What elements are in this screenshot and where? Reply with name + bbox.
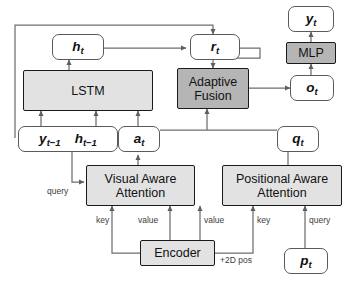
edge-label-positional-value: value — [203, 215, 225, 225]
node-o-t: ot — [290, 75, 334, 101]
edge-label-2d-pos: +2D pos — [219, 255, 253, 265]
architecture-diagram: ht rt yt ot at qt pt yt−1 ht−1 LSTM Adap… — [0, 0, 360, 283]
node-q-t: qt — [277, 126, 319, 152]
block-positional-aware-attention: Positional Aware Attention — [222, 165, 342, 206]
node-h-t: ht — [52, 34, 104, 60]
node-p-t: pt — [284, 248, 328, 274]
block-visual-attention-label-line2: Attention — [116, 186, 165, 200]
block-visual-aware-attention: Visual Aware Attention — [86, 165, 195, 206]
edge-label-positional-query: query — [308, 215, 331, 225]
node-prev-state: yt−1 ht−1 — [18, 126, 118, 152]
edge-label-visual-value: value — [137, 215, 159, 225]
node-o-t-label: ot — [306, 80, 317, 95]
block-lstm: LSTM — [23, 70, 153, 111]
block-adaptive-fusion-label-line1: Adaptive — [189, 75, 238, 89]
node-h-t-label: ht — [72, 39, 83, 54]
block-lstm-label: LSTM — [71, 84, 104, 98]
block-adaptive-fusion-label-line2: Fusion — [194, 89, 232, 103]
block-positional-attention-label-line1: Positional Aware — [236, 172, 328, 186]
block-encoder-label: Encoder — [154, 246, 201, 260]
node-q-t-label: qt — [292, 131, 303, 146]
block-visual-attention-label-line1: Visual Aware — [105, 172, 177, 186]
node-y-t: yt — [288, 6, 334, 32]
node-y-t-label: yt — [306, 11, 317, 26]
node-h-prev-label: ht−1 — [75, 131, 97, 146]
block-mlp-label: MLP — [298, 46, 324, 60]
node-y-prev-label: yt−1 — [39, 131, 61, 146]
node-a-t: at — [118, 126, 160, 152]
block-adaptive-fusion: Adaptive Fusion — [177, 68, 249, 109]
block-positional-attention-label-line2: Attention — [257, 186, 306, 200]
edge-label-positional-key: key — [256, 215, 271, 225]
node-a-t-label: at — [134, 131, 145, 146]
node-r-t: rt — [190, 34, 240, 60]
node-r-t-label: rt — [211, 39, 219, 54]
block-encoder: Encoder — [140, 240, 215, 266]
node-p-t-label: pt — [300, 253, 311, 268]
edge-label-visual-query: query — [46, 186, 69, 196]
block-mlp: MLP — [286, 42, 336, 64]
edge-label-visual-key: key — [95, 215, 110, 225]
